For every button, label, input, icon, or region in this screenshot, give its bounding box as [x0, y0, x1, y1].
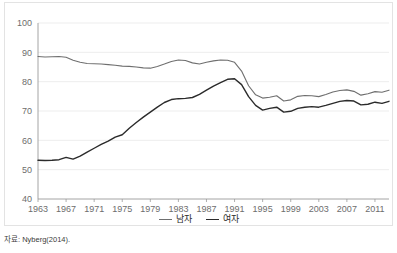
- y-axis-tick-label: 70: [22, 106, 32, 116]
- legend-item[interactable]: 여자: [206, 215, 239, 224]
- y-axis-tick-label: 40: [22, 194, 32, 204]
- x-axis-tick-label: 2003: [309, 204, 329, 214]
- legend-label: 남자: [176, 215, 192, 224]
- chart-legend: 남자여자: [0, 215, 397, 224]
- x-axis-tick-label: 1999: [281, 204, 301, 214]
- y-axis-tick-label: 50: [22, 165, 32, 175]
- x-axis-tick-label: 1963: [28, 204, 48, 214]
- line-chart-plot: 4050607080901001963196719711975197919831…: [5, 3, 392, 225]
- x-axis-tick-label: 2011: [365, 204, 384, 214]
- x-axis-tick-label: 1995: [253, 204, 273, 214]
- legend-line-icon: [159, 219, 172, 220]
- legend-label: 여자: [223, 215, 239, 224]
- x-axis-tick-label: 1975: [112, 204, 132, 214]
- y-axis-tick-label: 60: [22, 136, 32, 146]
- series-line-male[interactable]: [38, 56, 389, 101]
- x-axis-tick-label: 1987: [196, 204, 216, 214]
- x-axis-tick-label: 1971: [84, 204, 104, 214]
- x-axis-tick-label: 1967: [56, 204, 76, 214]
- chart-frame: 4050607080901001963196719711975197919831…: [4, 2, 393, 226]
- source-note: 자료: Nyberg(2014).: [4, 233, 70, 244]
- legend-line-icon: [206, 219, 219, 220]
- x-axis-tick-label: 1983: [168, 204, 188, 214]
- x-axis-tick-label: 1991: [225, 204, 245, 214]
- x-axis-tick-label: 2007: [337, 204, 357, 214]
- x-axis-tick-label: 1979: [140, 204, 160, 214]
- y-axis-tick-label: 100: [17, 18, 32, 28]
- y-axis-tick-label: 90: [22, 48, 32, 58]
- figure-container: 4050607080901001963196719711975197919831…: [0, 0, 397, 253]
- y-axis-tick-label: 80: [22, 77, 32, 87]
- legend-item[interactable]: 남자: [159, 215, 192, 224]
